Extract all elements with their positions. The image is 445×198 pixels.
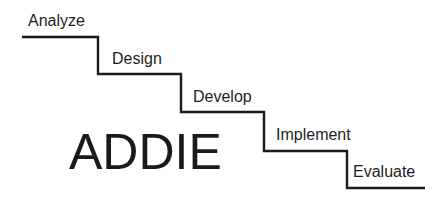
step-implement: Implement <box>276 127 351 143</box>
step-evaluate: Evaluate <box>353 164 415 180</box>
step-design: Design <box>112 51 162 67</box>
diagram-title: ADDIE <box>69 127 222 177</box>
step-analyze: Analyze <box>28 13 85 29</box>
step-develop: Develop <box>193 89 252 105</box>
